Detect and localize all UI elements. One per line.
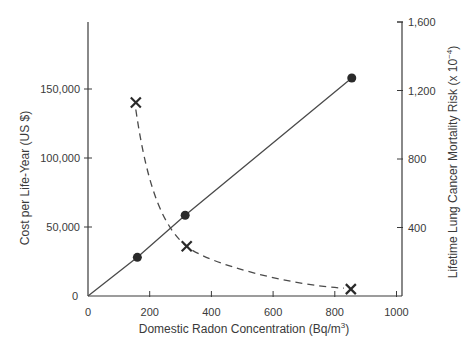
y-right-axis-title: Lifetime Lung Cancer Mortality Risk (x 1… — [445, 46, 460, 279]
circle-marker — [133, 253, 142, 262]
y-left-axis-title: Cost per Life-Year (US $) — [18, 111, 32, 245]
dual-axis-chart: 02004006008001000050,000100,000150,00040… — [0, 0, 476, 355]
y-left-tick-label: 150,000 — [40, 83, 80, 95]
circle-marker — [347, 73, 356, 82]
cost-line — [88, 78, 352, 296]
y-left-tick-label: 100,000 — [40, 152, 80, 164]
x-tick-label: 800 — [326, 306, 344, 318]
x-axis-title: Domestic Radon Concentration (Bq/m3) — [139, 321, 350, 336]
x-tick-label: 1000 — [384, 306, 408, 318]
y-right-tick-label: 1,600 — [408, 16, 436, 28]
y-left-tick-label: 0 — [72, 290, 78, 302]
circle-marker — [181, 211, 190, 220]
y-left-tick-label: 50,000 — [46, 221, 80, 233]
x-tick-label: 0 — [85, 306, 91, 318]
y-right-tick-label: 400 — [408, 222, 426, 234]
x-marker — [346, 284, 356, 294]
risk-curve — [136, 109, 344, 288]
x-tick-label: 600 — [264, 306, 282, 318]
x-marker — [182, 241, 192, 251]
y-right-tick-label: 1,200 — [408, 85, 436, 97]
x-tick-label: 400 — [202, 306, 220, 318]
x-tick-label: 200 — [141, 306, 159, 318]
x-marker — [131, 97, 141, 107]
axes: 02004006008001000050,000100,000150,00040… — [40, 16, 435, 318]
y-right-tick-label: 800 — [408, 153, 426, 165]
series-layer — [88, 73, 356, 296]
